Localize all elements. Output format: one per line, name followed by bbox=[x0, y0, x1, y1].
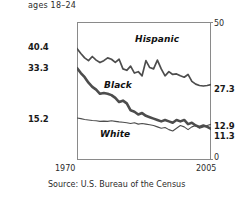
x-axis-start-label: 1970 bbox=[55, 164, 75, 173]
y-axis-max-label: 50 bbox=[214, 19, 224, 28]
tick-bottom-right bbox=[209, 159, 213, 160]
y-label-hispanic-end: 27.3 bbox=[214, 84, 235, 94]
chart-subtitle: ages 18–24 bbox=[28, 1, 76, 10]
source-note: Source: U.S. Bureau of the Census bbox=[48, 180, 185, 189]
series-black-path bbox=[77, 68, 211, 129]
series-label-white: White bbox=[100, 129, 130, 139]
y-label-hispanic-start: 40.4 bbox=[28, 42, 49, 52]
y-label-white-start: 15.2 bbox=[28, 114, 49, 124]
y-axis-min-label: 0 bbox=[214, 153, 219, 162]
y-label-black-start: 33.3 bbox=[28, 63, 49, 73]
chart-container: ages 18–24 40.4 33.3 15.2 27.3 12.9 11.3… bbox=[0, 0, 243, 197]
series-hispanic-path bbox=[77, 49, 211, 87]
tick-top-right bbox=[209, 22, 213, 23]
y-label-white-end: 12.9 bbox=[214, 121, 235, 131]
y-label-black-end: 11.3 bbox=[214, 131, 235, 141]
series-label-black: Black bbox=[104, 80, 132, 90]
series-white-path bbox=[77, 118, 211, 131]
x-axis-end-label: 2005 bbox=[196, 164, 216, 173]
series-label-hispanic: Hispanic bbox=[135, 34, 179, 44]
